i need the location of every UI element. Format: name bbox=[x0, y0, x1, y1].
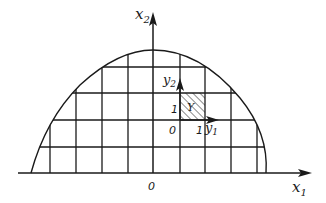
diagram-canvas: x2 x1 0 y2 y1 1 0 1 Y bbox=[0, 0, 326, 203]
x1-axis bbox=[18, 169, 312, 177]
y2-axis-label: y2 bbox=[162, 72, 176, 89]
x2-axis-label: x2 bbox=[135, 5, 150, 25]
y1-axis-label: y1 bbox=[204, 120, 218, 137]
y1-tick-label: 1 bbox=[196, 124, 203, 137]
y2-tick-label: 1 bbox=[171, 103, 178, 116]
x1-axis-label: x1 bbox=[292, 178, 307, 198]
local-origin-label: 0 bbox=[169, 124, 176, 137]
grid bbox=[20, 40, 280, 173]
origin-label: 0 bbox=[148, 180, 155, 193]
